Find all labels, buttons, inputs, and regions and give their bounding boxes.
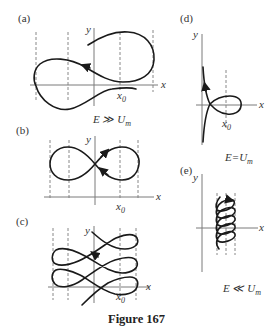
y-axis-label: y xyxy=(86,133,91,145)
x-axis-label: x xyxy=(161,78,166,90)
y-axis-label: y xyxy=(193,171,198,183)
panel-b-plot xyxy=(44,136,154,205)
condition-label-a: E ≫ Um xyxy=(93,113,131,128)
helical-coil-curve xyxy=(216,197,235,249)
x0-label: x0 xyxy=(222,117,231,132)
panel-e-plot xyxy=(196,174,258,272)
direction-arrow xyxy=(94,254,98,257)
condition-label-e: E ≪ Um xyxy=(223,282,261,297)
stacked-loops-curve xyxy=(52,232,138,305)
direction-arrow xyxy=(101,152,106,157)
panel-label-a: (a) xyxy=(18,12,30,24)
x-axis-label: x xyxy=(259,98,264,110)
direction-arrow xyxy=(205,86,206,91)
x-axis-label: x xyxy=(156,190,161,202)
direction-arrow xyxy=(226,199,230,200)
panel-c-plot xyxy=(48,226,150,305)
x-axis-label: x xyxy=(146,280,151,292)
panel-label-b: (b) xyxy=(16,124,29,136)
x0-label: x0 xyxy=(117,89,126,104)
x0-label: x0 xyxy=(116,200,125,215)
y-axis-label: y xyxy=(86,23,91,35)
panel-label-e: (e) xyxy=(180,164,192,176)
x-axis-label: x xyxy=(259,221,264,233)
y-axis-label: y xyxy=(193,28,198,40)
panel-a-plot xyxy=(30,28,158,109)
x0-label: x0 xyxy=(116,290,125,305)
panel-label-c: (c) xyxy=(16,215,28,227)
y-axis-label: y xyxy=(85,224,90,236)
figure-caption: Figure 167 xyxy=(108,312,165,327)
condition-label-d: E=Um xyxy=(225,151,253,166)
panel-label-d: (d) xyxy=(180,12,193,24)
